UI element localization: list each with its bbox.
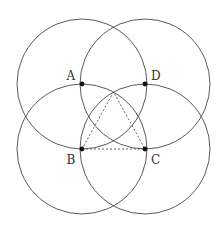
point-C: [143, 147, 148, 152]
label-B: B: [67, 153, 76, 167]
label-A: A: [66, 69, 76, 83]
point-B: [80, 147, 85, 152]
geometry-diagram: A D B C: [0, 0, 220, 230]
point-A: [80, 82, 85, 87]
label-C: C: [151, 153, 160, 167]
label-D: D: [151, 69, 161, 83]
circles: [17, 19, 210, 214]
point-D: [143, 82, 148, 87]
